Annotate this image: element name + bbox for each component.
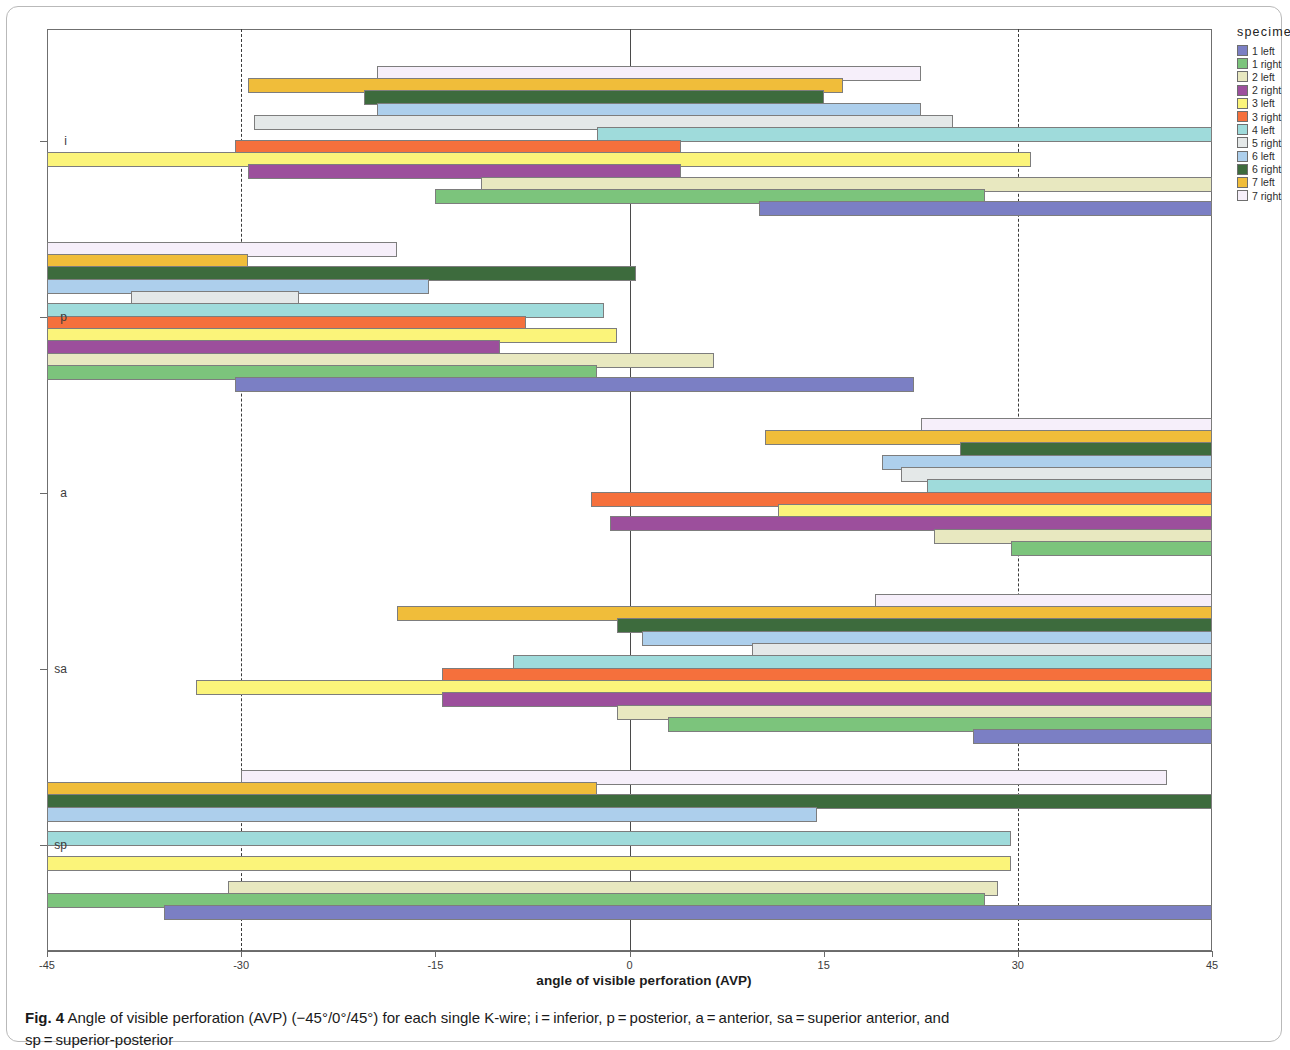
figure-frame: -45-30-150153045 angle of visible perfor…	[6, 6, 1282, 1042]
legend-item-label: 2 right	[1252, 84, 1281, 96]
legend-item-label: 1 right	[1252, 58, 1281, 70]
x-axis-title: angle of visible perforation (AVP)	[7, 973, 1281, 988]
figure-page: -45-30-150153045 angle of visible perfor…	[0, 0, 1290, 1050]
y-tick-sa	[40, 669, 47, 670]
legend-item-label: 4 left	[1252, 124, 1275, 136]
legend-swatch-icon	[1237, 58, 1248, 69]
legend-swatch-icon	[1237, 71, 1248, 82]
x-tick-0	[630, 951, 631, 957]
legend-title: specimen	[1237, 25, 1290, 39]
y-tick-a	[40, 493, 47, 494]
legend-swatch-icon	[1237, 124, 1248, 135]
legend-item[interactable]: 3 left	[1237, 97, 1290, 110]
x-tick-label-45: 45	[1206, 959, 1218, 971]
legend-item-label: 5 right	[1252, 137, 1281, 149]
legend-item[interactable]: 4 left	[1237, 123, 1290, 136]
legend-item-label: 3 right	[1252, 111, 1281, 123]
y-tick-label-i: i	[64, 134, 67, 148]
figure-caption: Fig. 4 Angle of visible perforation (AVP…	[25, 1007, 1270, 1030]
x-tick-label-0: 0	[626, 959, 632, 971]
bar-sp-1-left	[164, 905, 1213, 920]
legend-item-label: 7 right	[1252, 190, 1281, 202]
legend-swatch-icon	[1237, 177, 1248, 188]
x-tick-30	[1018, 951, 1019, 957]
legend-items: 1 left1 right2 left2 right3 left3 right4…	[1237, 44, 1290, 202]
y-tick-p	[40, 317, 47, 318]
legend-swatch-icon	[1237, 151, 1248, 162]
legend-swatch-icon	[1237, 164, 1248, 175]
caption-label: Fig. 4	[25, 1009, 64, 1026]
x-tick--30	[241, 951, 242, 957]
legend-item[interactable]: 7 left	[1237, 176, 1290, 189]
bar-p-1-left	[235, 377, 915, 392]
legend-item-label: 1 left	[1252, 45, 1275, 57]
x-tick--15	[435, 951, 436, 957]
bar-sp-4-left	[47, 831, 1011, 846]
y-tick-label-sp: sp	[54, 838, 67, 852]
bar-a-1-right	[1011, 541, 1212, 556]
bar-sp-6-left	[47, 807, 817, 822]
legend-item-label: 3 left	[1252, 97, 1275, 109]
x-tick-label-30: 30	[1012, 959, 1024, 971]
legend-item[interactable]: 2 left	[1237, 70, 1290, 83]
figure-caption-line2: sp = superior-posterior	[25, 1031, 173, 1048]
x-tick-label--30: -30	[233, 959, 249, 971]
legend: specimen 1 left1 right2 left2 right3 lef…	[1237, 25, 1290, 202]
legend-item[interactable]: 7 right	[1237, 189, 1290, 202]
plot-area	[47, 29, 1212, 951]
bar-sa-1-left	[973, 729, 1212, 744]
x-tick-label--45: -45	[39, 959, 55, 971]
legend-item-label: 2 left	[1252, 71, 1275, 83]
legend-item[interactable]: 1 left	[1237, 44, 1290, 57]
y-tick-i	[40, 141, 47, 142]
caption-text: Angle of visible perforation (AVP) (−45°…	[64, 1009, 949, 1026]
legend-swatch-icon	[1237, 190, 1248, 201]
legend-item[interactable]: 6 right	[1237, 163, 1290, 176]
bar-sp-3-left	[47, 856, 1011, 871]
legend-item-label: 6 left	[1252, 150, 1275, 162]
legend-item-label: 6 right	[1252, 163, 1281, 175]
legend-item[interactable]: 3 right	[1237, 110, 1290, 123]
legend-item[interactable]: 2 right	[1237, 84, 1290, 97]
legend-item-label: 7 left	[1252, 176, 1275, 188]
legend-item[interactable]: 1 right	[1237, 57, 1290, 70]
legend-swatch-icon	[1237, 45, 1248, 56]
x-tick-45	[1212, 951, 1213, 957]
y-tick-label-a: a	[60, 486, 67, 500]
x-tick-label-15: 15	[818, 959, 830, 971]
bar-i-1-left	[759, 201, 1212, 216]
x-tick-15	[824, 951, 825, 957]
legend-item[interactable]: 5 right	[1237, 136, 1290, 149]
x-tick--45	[47, 951, 48, 957]
y-tick-label-sa: sa	[54, 662, 67, 676]
y-tick-sp	[40, 845, 47, 846]
legend-item[interactable]: 6 left	[1237, 150, 1290, 163]
y-tick-label-p: p	[60, 310, 67, 324]
bar-i-4-left	[597, 127, 1212, 142]
x-tick-label--15: -15	[427, 959, 443, 971]
legend-swatch-icon	[1237, 137, 1248, 148]
legend-swatch-icon	[1237, 98, 1248, 109]
legend-swatch-icon	[1237, 85, 1248, 96]
legend-swatch-icon	[1237, 111, 1248, 122]
